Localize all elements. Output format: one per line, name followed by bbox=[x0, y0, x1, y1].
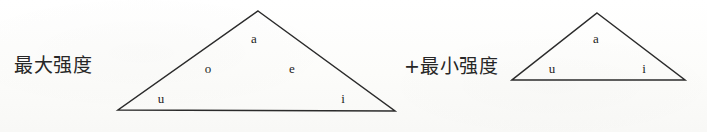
triangles-drawing bbox=[0, 0, 707, 132]
vowel-triangle-figure: 最大强度 +最小强度 aoeuiaui bbox=[0, 0, 707, 132]
vowel-label-u: u bbox=[549, 62, 556, 75]
vowel-label-i: i bbox=[341, 92, 345, 105]
vowel-label-u: u bbox=[158, 92, 165, 105]
min-intensity-caption: +最小强度 bbox=[404, 57, 498, 76]
vowel-label-e: e bbox=[289, 62, 295, 75]
min-intensity-triangle-shape bbox=[512, 13, 685, 80]
max-intensity-caption: 最大强度 bbox=[14, 56, 92, 75]
min-intensity-triangle-outline bbox=[512, 13, 685, 80]
vowel-label-a: a bbox=[593, 32, 599, 45]
vowel-label-a: a bbox=[251, 32, 257, 45]
vowel-label-i: i bbox=[642, 62, 646, 75]
vowel-label-o: o bbox=[205, 62, 212, 75]
